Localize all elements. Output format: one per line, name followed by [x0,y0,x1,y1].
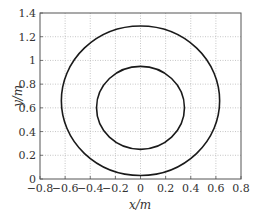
grid-lines [40,13,241,179]
y-axis-label: y/m [11,85,25,108]
x-tick-label: 0.8 [232,182,250,195]
circle-plot: −0.8−0.6−0.4−0.200.20.40.60.8 00.20.40.6… [0,0,259,213]
x-tick-labels: −0.8−0.6−0.4−0.200.20.40.60.8 [27,182,250,195]
y-tick-label: 1 [29,54,36,67]
y-tick-label: 1.4 [19,7,37,20]
x-axis-label: x/m [129,198,151,212]
y-tick-label: 1.2 [19,31,37,44]
x-tick-label: 0.2 [157,182,175,195]
x-tick-label: −0.4 [77,182,104,195]
x-tick-label: −0.6 [52,182,79,195]
y-tick-label: 0 [29,173,36,186]
x-tick-label: −0.2 [102,182,129,195]
y-tick-label: 0.4 [19,126,37,139]
y-tick-label: 0.2 [19,149,37,162]
x-tick-label: 0 [137,182,144,195]
x-tick-label: 0.4 [182,182,200,195]
x-tick-label: 0.6 [207,182,225,195]
